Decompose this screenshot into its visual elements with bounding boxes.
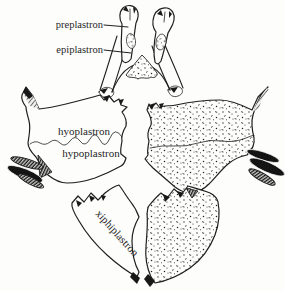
label-hyoplastron: hyoplastron	[58, 125, 110, 137]
label-epiplastron: epiplastron	[56, 44, 103, 55]
label-hypoplastron: hypoplastron	[62, 147, 120, 159]
plastron-diagram: preplastron epiplastron hyoplastron hypo…	[0, 0, 285, 291]
plastron-figure: preplastron epiplastron hyoplastron hypo…	[0, 0, 285, 291]
label-preplastron: preplastron	[56, 19, 104, 30]
